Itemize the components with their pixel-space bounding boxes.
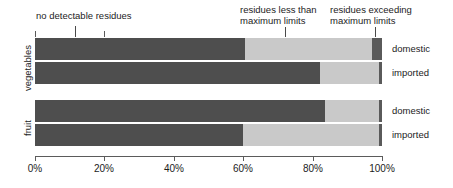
segment-no-detectable-residues [35, 100, 325, 122]
x-axis-tick-20pct [104, 156, 105, 161]
x-axis-tick-label-100pct: 100% [369, 163, 395, 174]
annotation-residues-less-than-maximum-limits: residues less than maximum limits [240, 4, 317, 26]
segment-residues-less-than-limit [243, 124, 378, 146]
segment-residues-less-than-limit [320, 62, 379, 84]
x-axis-tick-80pct [313, 156, 314, 161]
series-label-vegetables-imported: imported [392, 67, 429, 78]
bar-group-vegetables [35, 38, 382, 84]
x-axis-tick-label-80pct: 80% [303, 163, 323, 174]
x-axis-tick-label-60pct: 60% [233, 163, 253, 174]
plot-area [35, 38, 382, 153]
annotation-leader-line-no-detectable [75, 26, 76, 37]
x-axis-tick-60pct [243, 156, 244, 161]
group-label-fruit: fruit [22, 120, 33, 136]
x-axis-tick-100pct [382, 156, 383, 161]
annotation-residues-exceeding-maximum-limits: residues exceeding maximum limits [330, 4, 412, 26]
bar-vegetables-imported[interactable] [35, 62, 382, 84]
segment-residues-exceeding-limit [372, 38, 382, 60]
annotation-leader-line-less-than-limit [285, 27, 286, 37]
series-label-fruit-domestic: domestic [392, 105, 430, 116]
annotation-leader-line-exceeding-limit [375, 27, 376, 37]
group-label-vegetables: vegetables [22, 45, 33, 91]
x-axis-tick-label-40pct: 40% [164, 163, 184, 174]
x-axis-tick-0pct [35, 156, 36, 161]
x-axis-tick-label-0pct: 0% [28, 163, 42, 174]
x-axis-line [35, 156, 383, 157]
segment-residues-exceeding-limit [379, 62, 382, 84]
segment-no-detectable-residues [35, 38, 245, 60]
stacked-bar-chart: no detectable residues residues less tha… [0, 0, 453, 188]
segment-residues-exceeding-limit [379, 124, 382, 146]
bar-vegetables-domestic[interactable] [35, 38, 382, 60]
x-axis-tick-label-20pct: 20% [94, 163, 114, 174]
segment-residues-exceeding-limit [379, 100, 382, 122]
x-axis-top-tick-20pct [104, 31, 105, 37]
segment-no-detectable-residues [35, 62, 320, 84]
series-label-fruit-imported: imported [392, 129, 429, 140]
x-axis-tick-40pct [174, 156, 175, 161]
segment-residues-less-than-limit [325, 100, 379, 122]
x-axis-top-tick-0pct [35, 31, 36, 37]
annotation-no-detectable-residues: no detectable residues [36, 10, 132, 21]
segment-no-detectable-residues [35, 124, 243, 146]
series-label-vegetables-domestic: domestic [392, 43, 430, 54]
bar-fruit-domestic[interactable] [35, 100, 382, 122]
segment-residues-less-than-limit [245, 38, 372, 60]
bar-group-fruit [35, 100, 382, 146]
bar-fruit-imported[interactable] [35, 124, 382, 146]
